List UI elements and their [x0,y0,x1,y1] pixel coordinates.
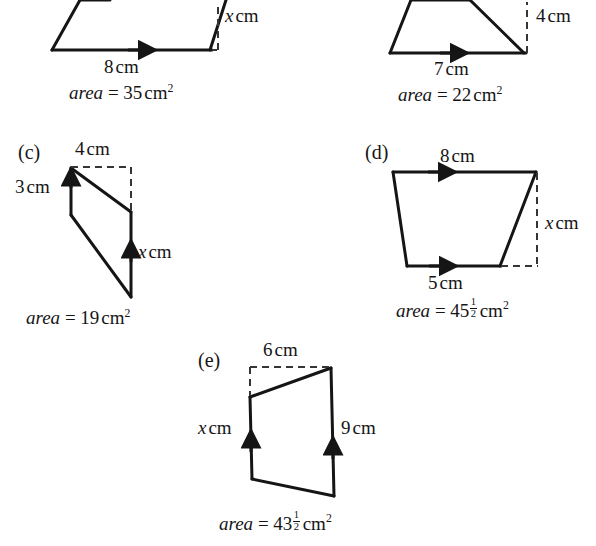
shape-c-trapezium [71,167,131,297]
label-d-top: 8cm [440,146,475,165]
area-value-b: 22 [452,84,471,105]
label-a-height: xcm [225,6,259,25]
label-a-height-var: x [225,5,233,26]
label-d-top-value: 8 [440,145,450,166]
label-b-height-value: 4 [536,5,546,26]
area-word-b: area [398,84,432,105]
area-text-c: area = 19cm2 [26,307,130,329]
area-word-c: area [26,307,60,328]
label-e-x-var: x [198,417,206,438]
area-exponent-e: 2 [326,512,332,525]
shape-d-trapezium [393,172,538,266]
label-c-left-unit: cm [27,176,50,197]
label-d-bottom-value: 5 [428,272,438,293]
shape-a-parallelogram [52,0,226,50]
figure-page: xcm 8cm area = 35cm2 4cm 7cm area = 22cm… [0,0,596,546]
label-c-left-side: 3cm [15,177,50,196]
label-a-base-value: 8 [104,56,114,77]
area-text-d: area = 4512cm2 [396,298,509,322]
label-d-x-var: x [545,212,553,233]
area-exponent-d: 2 [503,299,509,312]
label-a-base: 8cm [104,57,139,76]
area-exponent-b: 2 [497,84,503,97]
area-unit-a: cm [144,82,167,103]
shape-b-trapezium [390,0,527,53]
label-a-base-unit: cm [116,56,139,77]
part-label-e: (e) [198,349,220,372]
label-e-top-unit: cm [275,339,298,360]
area-value-e: 43 [273,513,292,534]
label-d-top-unit: cm [452,145,475,166]
label-c-x-unit: cm [148,241,171,262]
area-exponent-a: 2 [168,82,174,95]
area-text-e: area = 4312cm2 [219,511,332,535]
area-equals-c: = [65,307,76,328]
area-equals-e: = [258,513,269,534]
part-label-d: (d) [365,141,388,164]
area-fraction-d: 12 [470,297,477,319]
shape-e-trapezium [250,367,334,496]
area-fraction-d-denominator: 2 [470,309,477,320]
area-value-d: 45 [450,300,469,321]
part-label-c: (c) [18,141,40,164]
label-d-height: xcm [545,213,579,232]
label-e-right-value: 9 [341,417,351,438]
area-fraction-e-denominator: 2 [293,522,300,533]
area-unit-b: cm [473,84,496,105]
label-b-base-value: 7 [434,58,444,79]
label-c-right-side: xcm [138,242,172,261]
label-e-top: 6cm [263,340,298,359]
area-unit-d: cm [480,300,503,321]
area-word-d: area [396,300,430,321]
label-e-x-unit: cm [208,417,231,438]
label-c-top-value: 4 [75,138,85,159]
label-e-right-side: 9cm [341,418,376,437]
area-word-a: area [69,82,103,103]
label-c-left-value: 3 [15,176,25,197]
label-c-top-unit: cm [87,138,110,159]
area-text-b: area = 22cm2 [398,84,502,106]
area-equals-a: = [108,82,119,103]
area-value-c: 19 [80,307,99,328]
area-equals-d: = [435,300,446,321]
label-a-height-unit: cm [235,5,258,26]
label-c-top: 4cm [75,139,110,158]
label-e-left-side: xcm [198,418,232,437]
label-d-bottom: 5cm [428,273,463,292]
area-word-e: area [219,513,253,534]
area-value-a: 35 [123,82,142,103]
label-b-base: 7cm [434,59,469,78]
area-exponent-c: 2 [125,307,131,320]
area-equals-b: = [437,84,448,105]
area-unit-c: cm [101,307,124,328]
area-fraction-e: 12 [293,510,300,532]
label-d-bottom-unit: cm [440,272,463,293]
label-b-base-unit: cm [446,58,469,79]
label-c-x-var: x [138,241,146,262]
area-text-a: area = 35cm2 [69,82,173,104]
label-d-x-unit: cm [555,212,578,233]
area-unit-e: cm [303,513,326,534]
label-b-height-unit: cm [548,5,571,26]
label-b-height: 4cm [536,6,571,25]
label-e-top-value: 6 [263,339,273,360]
label-e-right-unit: cm [353,417,376,438]
